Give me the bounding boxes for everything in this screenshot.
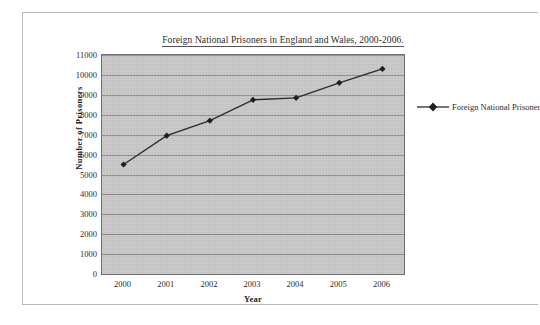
x-axis-tick-label: 2005 [318,279,358,289]
x-axis-tick-labels: 2000200120022003200420052006 [101,279,405,293]
x-axis-tick-label: 2003 [232,279,272,289]
x-axis-tick-label: 2000 [103,279,143,289]
y-axis-tick-label: 8000 [57,110,97,119]
y-axis-tick-label: 6000 [57,150,97,159]
y-axis-tick-label: 7000 [57,130,97,139]
data-point-marker [250,97,256,103]
x-axis-title: Year [101,294,405,304]
x-axis-tick-label: 2006 [361,279,401,289]
y-axis-tick-label: 5000 [57,170,97,179]
y-axis-tick-labels: 0100020003000400050006000700080009000100… [57,49,97,281]
y-axis-tick-label: 4000 [57,190,97,199]
diamond-marker-icon [417,101,449,113]
series-line [124,69,383,165]
data-point-marker [293,95,299,101]
y-axis-tick-label: 0 [57,270,97,279]
y-axis-tick-label: 9000 [57,90,97,99]
series-line-chart [102,55,404,274]
chart-legend: Foreign National Prisoner [417,101,540,113]
data-point-marker [336,80,342,86]
plot-area [101,54,405,275]
chart-title-text: Foreign National Prisoners in England an… [162,35,404,47]
chart-page-frame: Foreign National Prisoners in England an… [22,12,538,305]
x-axis-tick-label: 2001 [146,279,186,289]
data-point-marker [207,118,213,124]
x-axis-tick-label: 2004 [275,279,315,289]
y-axis-tick-label: 2000 [57,230,97,239]
x-axis-tick-label: 2002 [189,279,229,289]
chart-title: Foreign National Prisoners in England an… [83,35,483,45]
y-axis-tick-label: 1000 [57,250,97,259]
y-axis-tick-label: 11000 [57,51,97,60]
y-axis-tick-label: 10000 [57,70,97,79]
y-axis-tick-label: 3000 [57,210,97,219]
data-point-marker [379,66,385,72]
legend-entry-label: Foreign National Prisoner [452,102,540,112]
